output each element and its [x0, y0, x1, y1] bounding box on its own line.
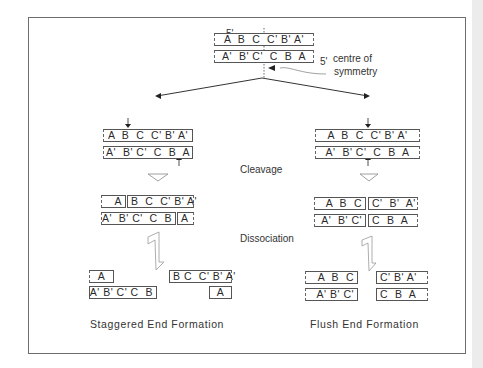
cleavage-label: Cleavage	[240, 164, 282, 175]
flush-fragment2-bottom: C B A	[376, 288, 428, 301]
flush-cleave-top-strand: A B C C' B' A'	[315, 129, 420, 142]
staggered-fragment2-bottom: A	[209, 286, 232, 299]
staggered-fragment2-top: B C C' B' A'	[169, 270, 232, 283]
top-duplex-upper-strand: A B C C' B' A'	[214, 33, 314, 46]
staggered-cut-top-right: B C C' B' A'	[127, 195, 194, 208]
flush-cut-bottom-left: A' B' C'	[314, 214, 366, 227]
staggered-cleave-bottom-strand: A' B' C' C B A	[103, 146, 193, 159]
staggered-fragment1-bottom: A' B' C' C B	[89, 286, 157, 299]
flush-fragment1-bottom: A' B' C'	[305, 288, 358, 301]
staggered-end-caption: Staggered End Formation	[90, 318, 224, 330]
staggered-cut-bottom-left: A' B' C' C B	[101, 212, 176, 225]
dissociation-label: Dissociation	[240, 233, 294, 244]
top-duplex-lower-strand: A' B' C' C B A	[214, 50, 314, 63]
flush-cut-top-left: A B C	[314, 197, 366, 210]
flush-end-caption: Flush End Formation	[310, 318, 419, 330]
flush-cut-top-right: C' B' A'	[368, 197, 418, 210]
staggered-cleave-top-strand: A B C C' B' A'	[103, 129, 193, 142]
staggered-fragment1-top: A	[89, 270, 114, 283]
symmetry-label-line2: symmetry	[334, 66, 377, 77]
staggered-cut-bottom-right: A	[177, 212, 194, 225]
flush-cleave-bottom-strand: A' B' C' C B A	[315, 146, 420, 159]
flush-fragment1-top: A B C	[305, 271, 358, 284]
staggered-cut-top-left: A	[101, 195, 126, 208]
symmetry-label-line1: centre of	[333, 53, 372, 64]
flush-cut-bottom-right: C B A	[368, 214, 418, 227]
five-prime-label-bottom: 5'	[320, 56, 327, 67]
flush-fragment2-top: C' B' A'	[376, 271, 428, 284]
